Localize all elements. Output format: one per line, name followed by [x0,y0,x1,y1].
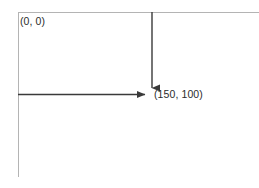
point-coordinate-label: (150, 100) [154,88,203,100]
coordinate-diagram-svg [0,0,259,188]
diagram-canvas: (0, 0) (150, 100) [0,0,259,188]
origin-coordinate-label: (0, 0) [20,15,45,27]
